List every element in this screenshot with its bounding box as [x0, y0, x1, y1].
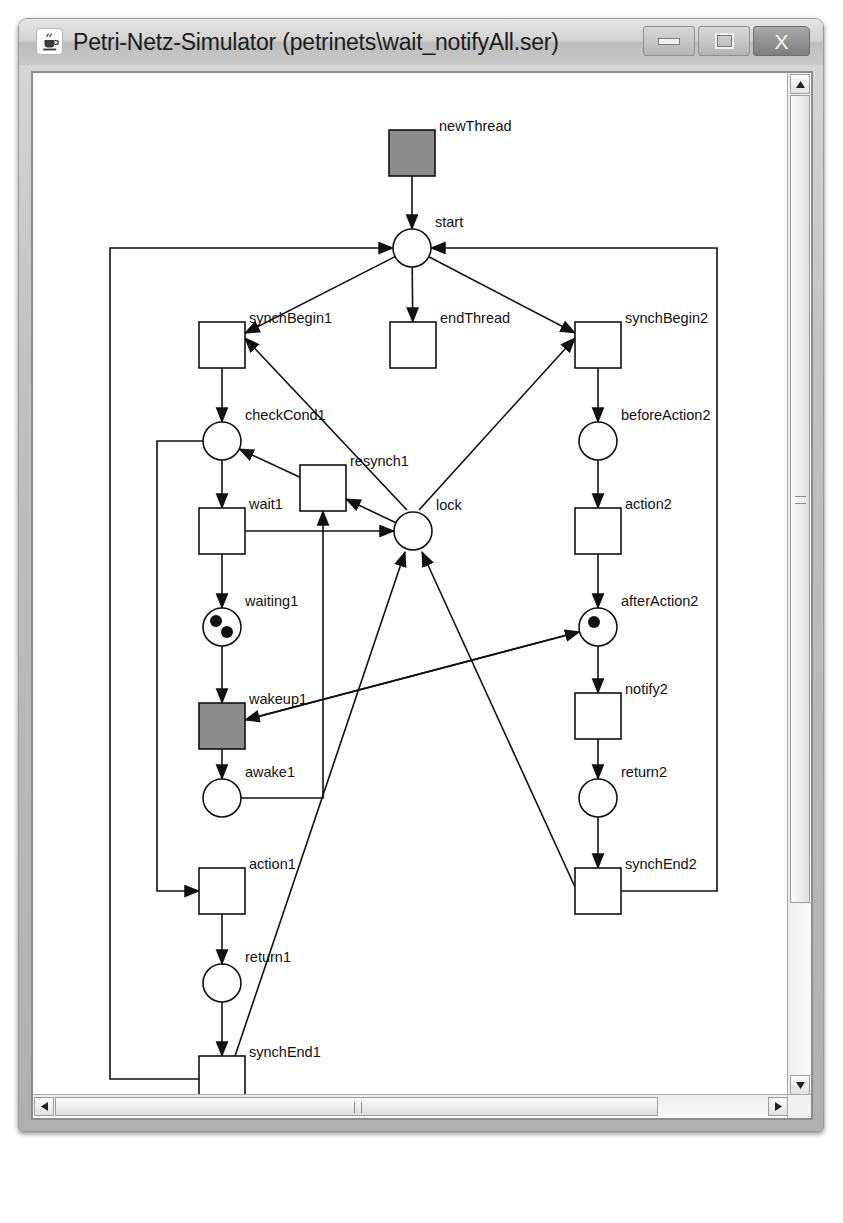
scrollbar-grip-icon	[354, 1102, 362, 1113]
place-afterAction2[interactable]	[579, 608, 617, 646]
transition-label-synchEnd2: synchEnd2	[625, 856, 697, 872]
place-beforeAction2[interactable]	[579, 422, 617, 460]
transition-resynch1[interactable]	[300, 465, 346, 511]
transition-label-synchEnd1: synchEnd1	[249, 1044, 321, 1060]
petri-net-canvas[interactable]: startcheckCond1waiting1awake1return1lock…	[33, 73, 789, 1096]
transition-wait1[interactable]	[199, 508, 245, 554]
transition-action1[interactable]	[199, 868, 245, 914]
transition-synchBegin1[interactable]	[199, 322, 245, 368]
transition-newThread[interactable]	[389, 130, 435, 176]
scrollbar-grip-icon	[795, 496, 806, 504]
label-layer: startcheckCond1waiting1awake1return1lock…	[244, 118, 710, 1060]
place-label-beforeAction2: beforeAction2	[621, 407, 710, 423]
canvas-client-area: startcheckCond1waiting1awake1return1lock…	[31, 71, 813, 1120]
place-return2[interactable]	[579, 779, 617, 817]
close-icon: X	[754, 27, 809, 55]
place-label-lock: lock	[436, 497, 463, 513]
vertical-scrollbar-thumb[interactable]	[790, 95, 810, 903]
horizontal-scrollbar[interactable]	[33, 1094, 789, 1118]
transition-label-newThread: newThread	[439, 118, 512, 134]
place-awake1[interactable]	[203, 779, 241, 817]
transition-synchEnd1[interactable]	[199, 1056, 245, 1096]
place-label-checkCond1: checkCond1	[245, 407, 326, 423]
transition-label-synchBegin2: synchBegin2	[625, 310, 708, 326]
transition-label-resynch1: resynch1	[350, 453, 409, 469]
scroll-down-arrow-icon[interactable]	[790, 1075, 810, 1095]
transition-label-endThread: endThread	[440, 310, 510, 326]
scrollbar-corner	[787, 1094, 811, 1118]
minimize-icon	[644, 27, 694, 55]
horizontal-scrollbar-thumb[interactable]	[55, 1097, 658, 1116]
close-button[interactable]: X	[753, 26, 810, 56]
transition-wakeup1[interactable]	[199, 703, 245, 749]
maximize-icon	[699, 27, 749, 55]
place-start[interactable]	[393, 229, 431, 267]
window-title: Petri-Netz-Simulator (petrinets\wait_not…	[73, 25, 559, 59]
scroll-right-arrow-icon[interactable]	[768, 1097, 788, 1116]
transition-synchEnd2[interactable]	[575, 868, 621, 914]
place-lock[interactable]	[394, 512, 432, 550]
place-label-waiting1: waiting1	[244, 593, 298, 609]
petri-net-graph[interactable]: startcheckCond1waiting1awake1return1lock…	[33, 73, 789, 1096]
transition-label-synchBegin1: synchBegin1	[249, 310, 332, 326]
transition-label-wait1: wait1	[248, 496, 283, 512]
place-label-afterAction2: afterAction2	[621, 593, 698, 609]
application-window: Petri-Netz-Simulator (petrinets\wait_not…	[18, 18, 824, 1132]
vertical-scrollbar[interactable]	[787, 73, 811, 1096]
place-label-start: start	[435, 214, 463, 230]
place-label-awake1: awake1	[245, 764, 295, 780]
window-titlebar[interactable]: Petri-Netz-Simulator (petrinets\wait_not…	[19, 19, 823, 65]
transition-synchBegin2[interactable]	[575, 322, 621, 368]
place-waiting1[interactable]	[203, 608, 241, 646]
transition-notify2[interactable]	[575, 693, 621, 739]
transition-label-action1: action1	[249, 856, 296, 872]
place-label-return1: return1	[245, 949, 291, 965]
maximize-button[interactable]	[698, 26, 750, 56]
transition-label-action2: action2	[625, 496, 672, 512]
scroll-up-arrow-icon[interactable]	[790, 74, 810, 94]
place-return1[interactable]	[203, 964, 241, 1002]
place-label-return2: return2	[621, 764, 667, 780]
transition-action2[interactable]	[575, 508, 621, 554]
transition-label-notify2: notify2	[625, 681, 668, 697]
minimize-button[interactable]	[643, 26, 695, 56]
java-coffee-cup-icon	[36, 28, 63, 55]
place-checkCond1[interactable]	[203, 422, 241, 460]
transition-label-wakeup1: wakeup1	[248, 691, 307, 707]
transition-endThread[interactable]	[390, 322, 436, 368]
scroll-left-arrow-icon[interactable]	[34, 1097, 54, 1116]
